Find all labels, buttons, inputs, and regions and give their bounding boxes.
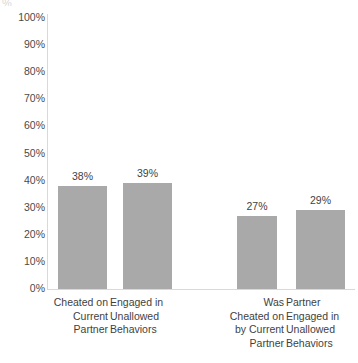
bar-value-label-3: 27% <box>227 200 287 212</box>
bar-value-label-1: 38% <box>53 170 113 182</box>
x-axis-category-label-4: Partner Engaged in Unallowed Behaviors <box>286 296 352 350</box>
bar-value-label-4: 29% <box>291 194 351 206</box>
y-axis-tick-50: 50% <box>3 148 45 159</box>
y-axis-tick-10: 10% <box>3 256 45 267</box>
y-axis-tick-20: 20% <box>3 229 45 240</box>
y-axis-tick-0: 0% <box>3 283 45 294</box>
y-axis-tick-80: 80% <box>3 66 45 77</box>
x-axis-category-label-3: Was Cheated on by Current Partner <box>218 296 284 350</box>
y-axis-tick-70: 70% <box>3 93 45 104</box>
x-axis-category-label-1: Cheated on Current Partner <box>42 296 108 337</box>
y-axis-tick-labels: 100%90%80%70%60%50%40%30%20%10%0% <box>0 0 45 363</box>
y-axis-tick-30: 30% <box>3 202 45 213</box>
bar-1 <box>58 186 107 289</box>
bar-4 <box>296 210 345 289</box>
bar-2 <box>123 183 172 289</box>
y-axis-tick-60: 60% <box>3 120 45 131</box>
x-axis-line <box>47 289 355 290</box>
x-axis-category-label-2: Engaged in Unallowed Behaviors <box>110 296 176 337</box>
bar-chart: % 100%90%80%70%60%50%40%30%20%10%0% 38%3… <box>0 0 358 363</box>
y-axis-tick-90: 90% <box>3 39 45 50</box>
y-axis-line <box>47 14 48 290</box>
y-axis-tick-40: 40% <box>3 175 45 186</box>
y-axis-tick-100: 100% <box>3 12 45 23</box>
bar-value-label-2: 39% <box>118 167 178 179</box>
bar-3 <box>237 216 277 289</box>
